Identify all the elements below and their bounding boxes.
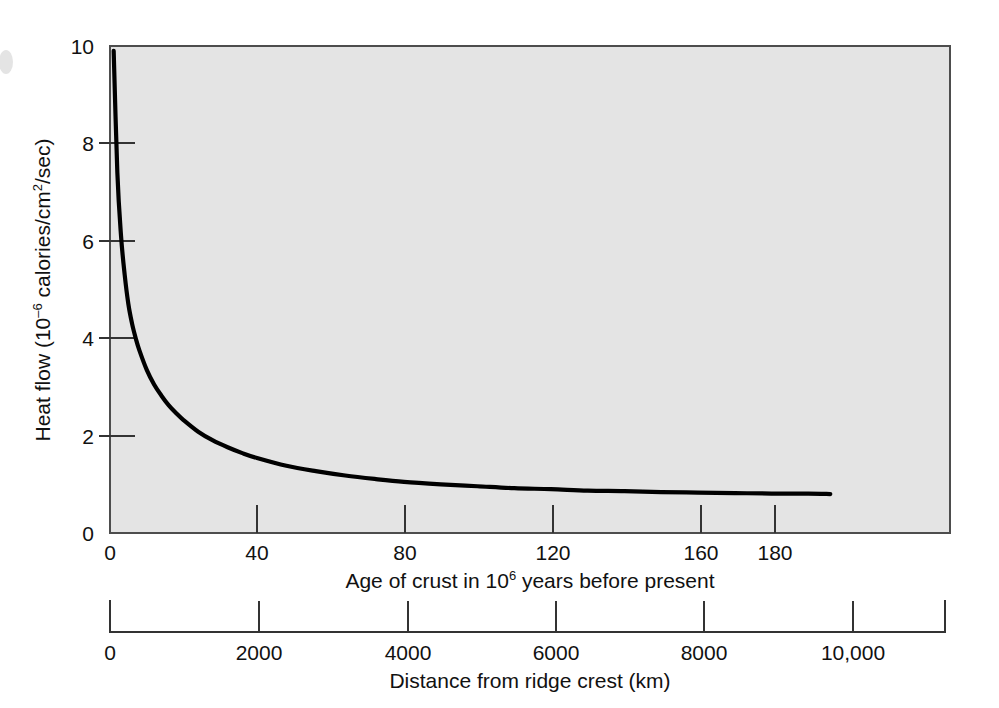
x-axis-bottom-title: Distance from ridge crest (km) xyxy=(389,669,670,692)
x-top-tick-label-0: 0 xyxy=(104,541,116,564)
distance-tick-label-6000: 6000 xyxy=(533,641,580,664)
distance-scale-axis xyxy=(110,601,945,632)
plot-background xyxy=(110,46,950,533)
x-top-tick-label-40: 40 xyxy=(245,541,268,564)
y-tick-label-10: 10 xyxy=(71,35,94,58)
y-axis-tick-labels: 0 2 4 6 8 10 xyxy=(71,35,95,545)
y-axis-title-end: /sec) xyxy=(31,139,54,185)
heat-flow-chart: 0 2 4 6 8 10 Heat flow (10–6 calories/cm… xyxy=(0,0,999,708)
x-axis-top-title-main: Age of crust in 10 xyxy=(345,569,508,592)
scan-artifact xyxy=(0,50,13,74)
distance-scale-tick-labels: 0 2000 4000 6000 8000 10,000 xyxy=(104,641,885,664)
x-top-tick-label-180: 180 xyxy=(757,541,792,564)
distance-scale-bracket xyxy=(110,601,945,632)
x-axis-top-title-exponent: 6 xyxy=(509,568,516,583)
distance-tick-label-0: 0 xyxy=(104,641,116,664)
y-axis-title: Heat flow (10–6 calories/cm2/sec) xyxy=(30,139,54,442)
x-axis-top-title-rest: years before present xyxy=(516,569,715,592)
x-axis-top-title: Age of crust in 106 years before present xyxy=(345,568,714,592)
y-tick-label-8: 8 xyxy=(82,132,94,155)
y-tick-label-0: 0 xyxy=(82,522,94,545)
x-axis-top-tick-labels: 0 40 80 120 160 180 xyxy=(104,541,792,564)
y-tick-label-6: 6 xyxy=(82,230,94,253)
y-axis-title-exponent2: 2 xyxy=(30,184,45,191)
y-axis-title-main: Heat flow (10 xyxy=(31,318,54,442)
distance-tick-label-10000: 10,000 xyxy=(821,641,885,664)
x-top-tick-label-160: 160 xyxy=(683,541,718,564)
distance-tick-label-2000: 2000 xyxy=(236,641,283,664)
x-top-tick-label-120: 120 xyxy=(535,541,570,564)
y-axis-title-exponent: –6 xyxy=(30,303,45,317)
y-tick-label-4: 4 xyxy=(82,327,94,350)
heat-flow-figure: 0 2 4 6 8 10 Heat flow (10–6 calories/cm… xyxy=(0,0,999,708)
svg-text:Heat flow (10–6 calories/cm2/s: Heat flow (10–6 calories/cm2/sec) xyxy=(30,139,54,442)
distance-tick-label-4000: 4000 xyxy=(385,641,432,664)
distance-tick-label-8000: 8000 xyxy=(681,641,728,664)
y-axis-title-rest: calories/cm xyxy=(31,191,54,303)
x-top-tick-label-80: 80 xyxy=(393,541,416,564)
y-tick-label-2: 2 xyxy=(82,425,94,448)
